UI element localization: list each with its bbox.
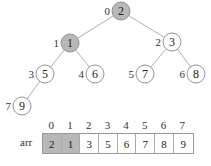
tree-node: 97 bbox=[6, 97, 32, 115]
node-index-label: 6 bbox=[180, 68, 186, 80]
tree-node: 86 bbox=[180, 65, 206, 83]
node-value: 5 bbox=[42, 67, 48, 81]
array-index: 6 bbox=[154, 119, 173, 131]
array-cell: 8 bbox=[155, 134, 174, 153]
array-index: 4 bbox=[117, 119, 136, 131]
node-value: 7 bbox=[142, 67, 148, 81]
array-index: 7 bbox=[173, 119, 192, 131]
array-cell: 1 bbox=[62, 134, 81, 153]
tree-node: 53 bbox=[29, 65, 55, 83]
array-cell: 7 bbox=[136, 134, 155, 153]
node-index-label: 3 bbox=[29, 68, 35, 80]
node-index-label: 0 bbox=[105, 5, 111, 17]
array-index: 1 bbox=[61, 119, 80, 131]
array-index: 2 bbox=[79, 119, 98, 131]
array-cell: 2 bbox=[43, 134, 62, 153]
array-cell: 6 bbox=[118, 134, 137, 153]
array-index: 0 bbox=[42, 119, 61, 131]
array-cell: 9 bbox=[174, 134, 193, 153]
node-value: 8 bbox=[193, 67, 199, 81]
node-value: 3 bbox=[169, 35, 175, 49]
tree-node: 20 bbox=[105, 2, 131, 20]
node-value: 2 bbox=[118, 4, 124, 18]
tree-node: 32 bbox=[156, 33, 182, 51]
array-cell: 5 bbox=[99, 134, 118, 153]
heap-tree: 2011325364758697 bbox=[0, 0, 211, 118]
node-index-label: 2 bbox=[156, 36, 162, 48]
node-index-label: 7 bbox=[6, 100, 12, 112]
node-index-label: 4 bbox=[79, 68, 85, 80]
array-index-row: 01234567 bbox=[42, 119, 192, 131]
node-value: 9 bbox=[19, 99, 25, 113]
array-index: 3 bbox=[98, 119, 117, 131]
node-index-label: 1 bbox=[54, 37, 60, 49]
array-cells: 21356789 bbox=[42, 133, 194, 154]
node-index-label: 5 bbox=[129, 68, 135, 80]
array-name-label: arr bbox=[20, 136, 32, 148]
node-value: 6 bbox=[92, 67, 98, 81]
tree-node: 11 bbox=[54, 34, 80, 52]
tree-node: 64 bbox=[79, 65, 105, 83]
array-cell: 3 bbox=[80, 134, 99, 153]
node-value: 1 bbox=[67, 36, 73, 50]
array-index: 5 bbox=[135, 119, 154, 131]
tree-node: 75 bbox=[129, 65, 155, 83]
